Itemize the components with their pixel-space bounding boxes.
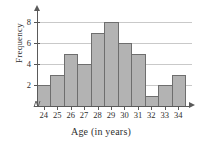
y-axis-arrow-icon bbox=[34, 5, 40, 11]
histogram-bar bbox=[77, 64, 91, 106]
histogram-bar bbox=[104, 22, 118, 106]
y-axis-line bbox=[37, 10, 38, 107]
histogram-bar bbox=[145, 96, 159, 106]
y-tick-label: 8 bbox=[19, 18, 31, 27]
histogram-bars bbox=[37, 12, 185, 106]
x-axis-title: Age (in years) bbox=[0, 126, 202, 137]
x-axis-arrow-icon bbox=[189, 102, 195, 108]
y-tick-label: 6 bbox=[19, 39, 31, 48]
x-axis-tick-labels: 24 25 26 27 28 29 30 31 32 33 34 bbox=[37, 111, 185, 123]
x-tick-label: 34 bbox=[170, 111, 186, 120]
y-tick-label: 4 bbox=[19, 60, 31, 69]
histogram-bar bbox=[50, 75, 64, 106]
histogram-bar bbox=[158, 85, 172, 106]
y-tick-label: 2 bbox=[19, 81, 31, 90]
histogram-bar bbox=[91, 33, 105, 106]
histogram-bar bbox=[64, 54, 78, 106]
histogram-figure: Frequency 2 4 6 8 bbox=[0, 0, 202, 150]
histogram-bar bbox=[131, 54, 145, 106]
histogram-bar bbox=[118, 43, 132, 106]
plot-area bbox=[37, 12, 185, 106]
histogram-bar bbox=[172, 75, 186, 106]
